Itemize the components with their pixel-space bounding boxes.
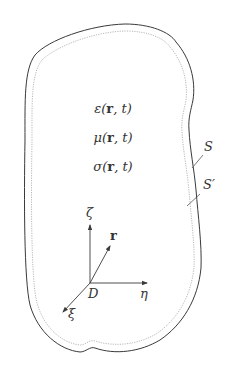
inner-boundary-s-prime [32, 31, 195, 345]
r-label: r [110, 228, 117, 243]
s-prime-label: S′ [203, 177, 215, 192]
diagram-canvas: ε(r, t) μ(r, t) σ(r, t) S S′ ζ r η ξ D [0, 0, 226, 372]
mu-label: μ(r, t) [94, 130, 133, 145]
s-leader-line [192, 155, 203, 168]
s-prime-leader-line [187, 194, 200, 206]
diagram-svg: ε(r, t) μ(r, t) σ(r, t) S S′ ζ r η ξ D [0, 0, 226, 372]
sigma-label: σ(r, t) [93, 159, 132, 174]
outer-boundary-s [25, 24, 202, 352]
xi-label: ξ [68, 306, 76, 321]
eta-label: η [140, 286, 148, 301]
r-vector-arrow [90, 246, 110, 283]
origin-d-label: D [87, 286, 99, 301]
epsilon-label: ε(r, t) [94, 101, 131, 116]
s-label: S [204, 139, 213, 154]
zeta-label: ζ [86, 205, 94, 220]
